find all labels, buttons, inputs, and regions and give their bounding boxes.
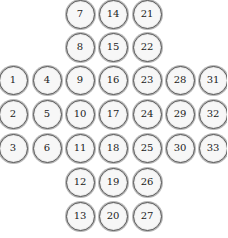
peg-hole-4[interactable]: 4 [33,66,62,95]
peg-hole-9[interactable]: 9 [66,66,95,95]
peg-hole-27[interactable]: 27 [133,202,162,231]
peg-hole-29[interactable]: 29 [166,100,195,129]
peg-hole-33[interactable]: 33 [199,134,228,163]
peg-hole-6[interactable]: 6 [33,134,62,163]
peg-hole-7[interactable]: 7 [66,0,95,29]
peg-hole-19[interactable]: 19 [99,168,128,197]
peg-hole-24[interactable]: 24 [133,100,162,129]
peg-hole-11[interactable]: 11 [66,134,95,163]
peg-hole-2[interactable]: 2 [0,100,28,129]
peg-hole-13[interactable]: 13 [66,202,95,231]
peg-hole-5[interactable]: 5 [33,100,62,129]
peg-hole-22[interactable]: 22 [133,33,162,62]
peg-hole-31[interactable]: 31 [199,66,228,95]
peg-hole-12[interactable]: 12 [66,168,95,197]
peg-hole-20[interactable]: 20 [99,202,128,231]
peg-hole-21[interactable]: 21 [133,0,162,29]
peg-board: 1234567891011121314151617181920212223242… [0,0,227,238]
peg-hole-8[interactable]: 8 [66,33,95,62]
peg-hole-32[interactable]: 32 [199,100,228,129]
peg-hole-16[interactable]: 16 [99,66,128,95]
peg-hole-17[interactable]: 17 [99,100,128,129]
peg-hole-30[interactable]: 30 [166,134,195,163]
peg-hole-14[interactable]: 14 [99,0,128,29]
peg-hole-1[interactable]: 1 [0,66,28,95]
peg-hole-10[interactable]: 10 [66,100,95,129]
peg-hole-15[interactable]: 15 [99,33,128,62]
peg-hole-25[interactable]: 25 [133,134,162,163]
peg-hole-18[interactable]: 18 [99,134,128,163]
peg-hole-28[interactable]: 28 [166,66,195,95]
peg-hole-23[interactable]: 23 [133,66,162,95]
peg-hole-3[interactable]: 3 [0,134,28,163]
peg-hole-26[interactable]: 26 [133,168,162,197]
